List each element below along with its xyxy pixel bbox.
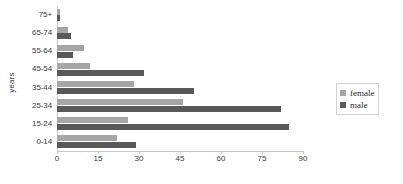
bar-group-45-54	[57, 60, 303, 78]
x-tick-label-75: 75	[247, 154, 277, 163]
bar-female-45-54	[57, 63, 90, 69]
x-tick-label-60: 60	[206, 154, 236, 163]
x-tick-label-45: 45	[165, 154, 195, 163]
legend-item-female[interactable]: female	[340, 87, 374, 99]
bar-female-75+	[57, 9, 60, 15]
y-tick-label-65-74: 65-74	[0, 28, 52, 37]
bar-female-0-14	[57, 135, 117, 141]
y-tick-label-75+: 75+	[0, 10, 52, 19]
legend-swatch-male-icon	[340, 102, 346, 108]
x-tick-label-90: 90	[288, 154, 318, 163]
y-tick-label-35-44: 35-44	[0, 83, 52, 92]
legend-swatch-female-icon	[340, 90, 346, 96]
bar-group-65-74	[57, 24, 303, 42]
y-tick-label-15-24: 15-24	[0, 119, 52, 128]
bar-female-65-74	[57, 27, 68, 33]
y-tick-label-45-54: 45-54	[0, 64, 52, 73]
bar-female-35-44	[57, 81, 134, 87]
legend-label-female: female	[350, 88, 374, 98]
bar-female-55-64	[57, 45, 84, 51]
bar-group-15-24	[57, 115, 303, 133]
y-tick-label-25-34: 25-34	[0, 101, 52, 110]
bar-female-15-24	[57, 117, 128, 123]
bar-male-25-34	[57, 106, 281, 112]
x-tick-label-30: 30	[124, 154, 154, 163]
bar-female-25-34	[57, 99, 183, 105]
bar-group-25-34	[57, 97, 303, 115]
legend-item-male[interactable]: male	[340, 99, 374, 111]
x-tick-label-0: 0	[42, 154, 72, 163]
bar-male-0-14	[57, 142, 136, 148]
bar-male-55-64	[57, 52, 73, 58]
bar-chart: years 75+65-7455-6445-5435-4425-3415-240…	[0, 0, 403, 184]
x-tick-label-15: 15	[83, 154, 113, 163]
chart-legend: femalemale	[336, 83, 379, 115]
y-tick-label-55-64: 55-64	[0, 46, 52, 55]
bar-male-35-44	[57, 88, 194, 94]
bar-male-75+	[57, 15, 60, 21]
bar-group-35-44	[57, 79, 303, 97]
legend-label-male: male	[350, 100, 368, 110]
bar-male-45-54	[57, 70, 144, 76]
bar-group-75+	[57, 6, 303, 24]
bar-male-15-24	[57, 124, 289, 130]
bar-male-65-74	[57, 33, 71, 39]
bar-group-0-14	[57, 133, 303, 151]
bar-group-55-64	[57, 42, 303, 60]
y-tick-label-0-14: 0-14	[0, 137, 52, 146]
